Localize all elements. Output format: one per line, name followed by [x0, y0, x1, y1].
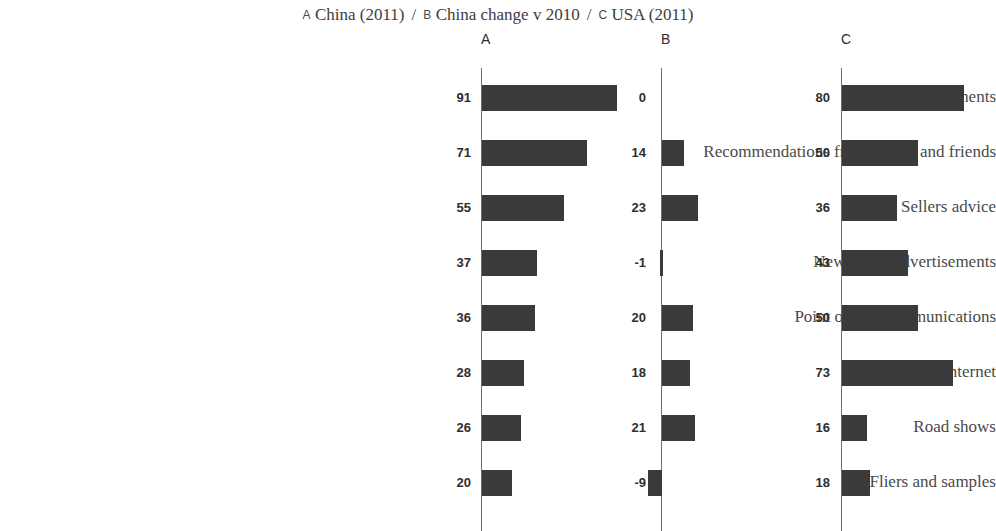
value-label-a: 36 — [431, 310, 471, 326]
bar-b — [648, 470, 662, 496]
value-label-c: 43 — [790, 255, 830, 271]
axis-line-c — [841, 68, 842, 531]
value-label-b: 20 — [606, 310, 646, 326]
value-label-c: 36 — [790, 200, 830, 216]
bar-a — [482, 195, 564, 221]
bar-b — [662, 305, 693, 331]
bar-c — [842, 140, 918, 166]
bar-a — [482, 415, 521, 441]
title-text-c: USA (2011) — [607, 5, 693, 24]
bar-b — [662, 140, 684, 166]
bar-c — [842, 85, 964, 111]
value-label-a: 71 — [431, 145, 471, 161]
title-key-a: A — [303, 8, 311, 22]
bar-b — [662, 195, 698, 221]
title-text-a: China (2011) — [311, 5, 405, 24]
bar-c — [842, 415, 867, 441]
axis-line-a — [481, 68, 482, 531]
value-label-c: 18 — [790, 475, 830, 491]
value-label-c: 50 — [790, 310, 830, 326]
column-header-a: A — [481, 31, 490, 47]
value-label-a: 91 — [431, 90, 471, 106]
value-label-b: -9 — [606, 475, 646, 491]
bar-b — [662, 415, 695, 441]
bar-a — [482, 250, 537, 276]
bar-a — [482, 305, 535, 331]
value-label-c: 80 — [790, 90, 830, 106]
bar-b — [660, 250, 663, 276]
value-label-b: 0 — [606, 90, 646, 106]
title-separator-1: / — [405, 5, 424, 24]
bar-b — [662, 360, 690, 386]
title-separator-2: / — [580, 5, 599, 24]
value-label-b: 18 — [606, 365, 646, 381]
bar-c — [842, 470, 870, 496]
value-label-b: 21 — [606, 420, 646, 436]
bar-a — [482, 85, 617, 111]
bar-c — [842, 360, 953, 386]
value-label-b: 23 — [606, 200, 646, 216]
value-label-a: 20 — [431, 475, 471, 491]
value-label-b: -1 — [606, 255, 646, 271]
value-label-a: 37 — [431, 255, 471, 271]
column-header-b: B — [661, 31, 670, 47]
value-label-c: 16 — [790, 420, 830, 436]
value-label-a: 26 — [431, 420, 471, 436]
axis-line-b — [661, 68, 662, 531]
bar-a — [482, 140, 587, 166]
bar-a — [482, 470, 512, 496]
chart-title: AChina (2011)/BChina change v 2010/CUSA … — [0, 4, 996, 26]
value-label-c: 50 — [790, 145, 830, 161]
value-label-c: 73 — [790, 365, 830, 381]
title-text-b: China change v 2010 — [432, 5, 580, 24]
bar-a — [482, 360, 524, 386]
bar-c — [842, 195, 897, 221]
bar-c — [842, 250, 908, 276]
column-header-c: C — [841, 31, 851, 47]
value-label-a: 55 — [431, 200, 471, 216]
bar-c — [842, 305, 918, 331]
value-label-b: 14 — [606, 145, 646, 161]
title-key-b: B — [423, 8, 431, 22]
value-label-a: 28 — [431, 365, 471, 381]
